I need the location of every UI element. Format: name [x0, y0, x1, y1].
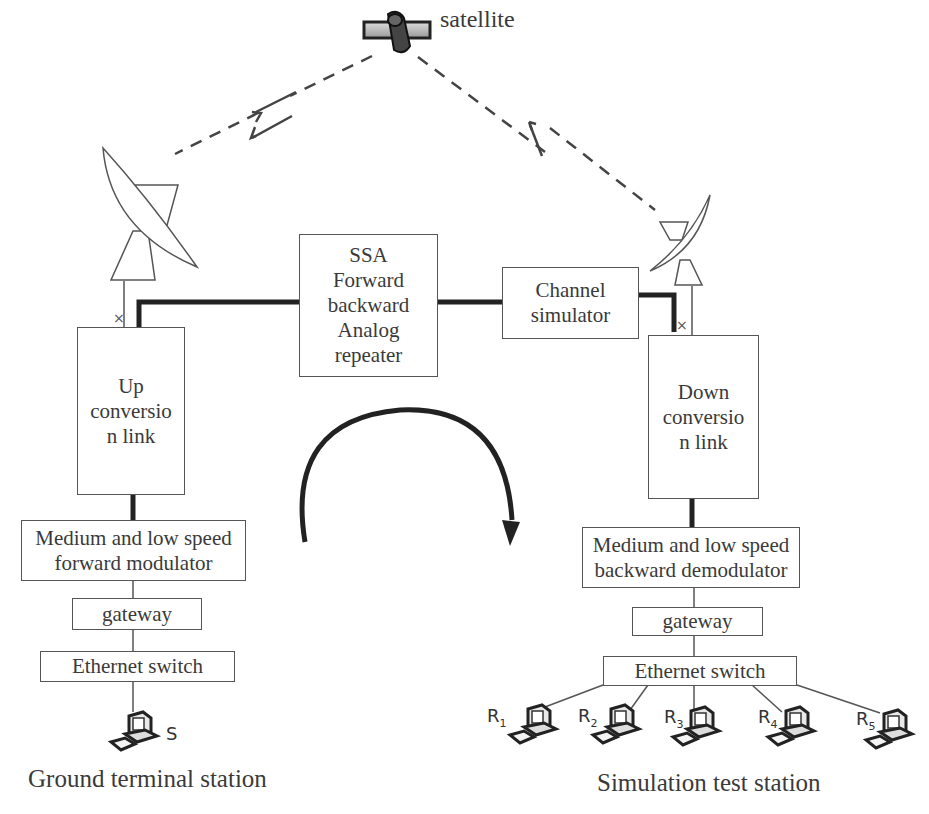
backward-demodulator-box: Medium and low speed backward demodulato…	[582, 527, 800, 588]
ssa-line-5: repeater	[335, 343, 403, 368]
satellite-label: satellite	[440, 6, 515, 33]
receiver-r3-sub: 3	[677, 718, 684, 731]
ground-gateway-box: gateway	[72, 598, 202, 630]
receiver-r3-label: R3	[664, 706, 684, 731]
down-conversion-line-2: conversio	[663, 405, 745, 430]
receiver-r1-base: R	[487, 705, 500, 726]
receiver-r2-computer-icon	[593, 705, 639, 743]
receiver-r2-sub: 2	[591, 717, 598, 730]
right-isolator-mark: ×	[676, 317, 688, 333]
modulator-line-1: Medium and low speed	[35, 526, 232, 551]
terminal-s-computer-icon	[111, 712, 157, 750]
ground-station-caption: Ground terminal station	[28, 765, 267, 793]
test-ethernet-switch-box: Ethernet switch	[603, 656, 797, 686]
receiver-r2-label: R2	[578, 705, 598, 730]
up-conversion-line-2: conversio	[90, 399, 172, 424]
receiver-r1-computer-icon	[510, 705, 556, 743]
clockwise-arc-arrow-icon	[302, 410, 520, 546]
receiver-r2-base: R	[578, 705, 591, 726]
receiver-r5-sub: 5	[869, 720, 876, 733]
channel-simulator-box: Channel simulator	[502, 267, 639, 339]
channel-simulator-line-2: simulator	[531, 303, 610, 328]
terminal-s-label: S	[166, 723, 177, 744]
receiver-r5-label: R5	[856, 708, 876, 733]
receiver-r4-base: R	[758, 706, 771, 727]
ground-ethernet-switch-box: Ethernet switch	[40, 651, 235, 682]
up-conversion-line-1: Up	[118, 374, 144, 399]
up-conversion-line-3: n link	[107, 424, 155, 449]
ssa-repeater-box: SSA Forward backward Analog repeater	[299, 234, 438, 377]
forward-modulator-box: Medium and low speed forward modulator	[21, 520, 246, 581]
ssa-line-2: Forward	[333, 268, 404, 293]
demodulator-line-1: Medium and low speed	[593, 533, 790, 558]
ground-gateway-label: gateway	[102, 602, 172, 627]
satellite-icon	[364, 12, 430, 53]
receiver-r3-base: R	[664, 706, 677, 727]
down-conversion-link-box: Down conversio n link	[648, 335, 759, 499]
uplink-dashed-line	[175, 56, 372, 154]
test-gateway-box: gateway	[632, 607, 763, 636]
ssa-line-3: backward	[328, 293, 410, 318]
test-switch-label: Ethernet switch	[634, 659, 765, 684]
lightning-arrow-down-icon	[251, 92, 296, 138]
modulator-line-2: forward modulator	[54, 551, 212, 576]
receiver-r4-label: R4	[758, 706, 778, 731]
right-dish-antenna-icon	[650, 195, 710, 336]
down-conversion-line-3: n link	[679, 430, 727, 455]
receiver-r4-sub: 4	[771, 718, 778, 731]
test-station-caption: Simulation test station	[597, 769, 821, 797]
downlink-dashed-line	[418, 57, 655, 210]
ssa-line-1: SSA	[349, 243, 388, 268]
down-conversion-line-1: Down	[678, 380, 729, 405]
test-gateway-label: gateway	[663, 609, 733, 634]
receiver-r1-sub: 1	[500, 717, 507, 730]
channel-simulator-line-1: Channel	[536, 278, 606, 303]
ssa-line-4: Analog	[338, 318, 400, 343]
thin-connectors	[133, 580, 880, 713]
demodulator-line-2: backward demodulator	[594, 558, 787, 583]
lightning-arrow-up-icon	[529, 122, 542, 156]
receiver-r1-label: R1	[487, 705, 507, 730]
up-conversion-link-box: Up conversio n link	[77, 327, 185, 495]
receiver-r5-base: R	[856, 708, 869, 729]
left-isolator-mark: ×	[113, 310, 125, 326]
ground-switch-label: Ethernet switch	[72, 654, 203, 679]
